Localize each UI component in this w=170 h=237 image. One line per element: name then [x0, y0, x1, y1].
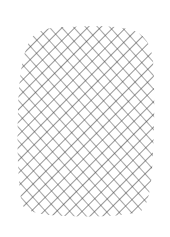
hatch-fill: [0, 0, 170, 237]
crosshatch-drawing: [0, 0, 170, 237]
